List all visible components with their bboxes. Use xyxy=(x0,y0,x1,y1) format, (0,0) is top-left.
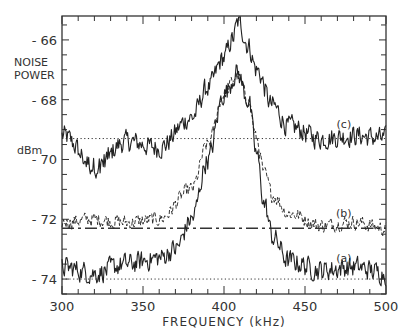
curves xyxy=(62,17,386,286)
x-tick-label: 400 xyxy=(212,299,237,314)
x-axis-title: FREQUENCY (kHz) xyxy=(162,315,286,329)
curve-label-c: (c) xyxy=(337,118,352,131)
x-tick-label: 500 xyxy=(374,299,399,314)
y-axis-title-line2: POWER xyxy=(14,69,55,82)
labels: - 66- 68- 70- 72- 74300350400450500FREQU… xyxy=(14,33,398,329)
curve-label-a: (a) xyxy=(336,252,351,265)
curve-label-b: (b) xyxy=(336,207,352,220)
y-tick-label: - 74 xyxy=(32,272,57,287)
x-tick-label: 450 xyxy=(293,299,318,314)
y-axis-unit: dBm xyxy=(17,144,42,157)
y-tick-label: - 68 xyxy=(32,93,57,108)
x-tick-label: 300 xyxy=(50,299,75,314)
noise-power-chart: - 66- 68- 70- 72- 74300350400450500FREQU… xyxy=(0,0,404,335)
y-axis-title-line1: NOISE xyxy=(14,56,48,69)
y-tick-label: - 66 xyxy=(32,33,57,48)
y-tick-label: - 72 xyxy=(32,212,57,227)
x-tick-label: 350 xyxy=(131,299,156,314)
